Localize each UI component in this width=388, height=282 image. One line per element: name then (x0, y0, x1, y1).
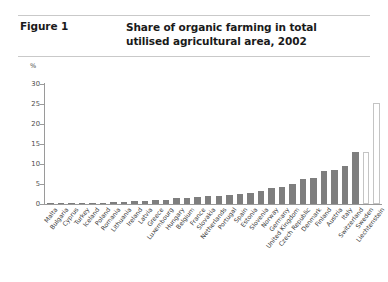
bar (279, 187, 286, 204)
bar (331, 170, 338, 204)
bar (300, 179, 307, 204)
bar (173, 198, 180, 204)
bar-cell (56, 84, 67, 204)
y-axis-tick (40, 144, 45, 145)
bar-cell (98, 84, 109, 204)
bar (47, 203, 54, 204)
bar (310, 178, 317, 204)
y-axis-tick-label: 10 (10, 161, 40, 168)
figure-title-line-2: utilised agricultural area, 2002 (126, 34, 370, 48)
bar-cell (87, 84, 98, 204)
y-axis-tick-labels: 051015202530 (6, 0, 40, 282)
bar-cell (45, 84, 56, 204)
x-axis-tick-labels: MaltaBulgariaCyprusTurkeyIcelandPolandRo… (45, 206, 382, 282)
figure-panel: Figure 1 Share of organic farming in tot… (0, 0, 388, 282)
y-axis-tick-label: 25 (10, 101, 40, 108)
bar (110, 202, 117, 204)
bar (352, 152, 359, 204)
bar (152, 200, 159, 204)
bar-cell (192, 84, 203, 204)
bar-cell (171, 84, 182, 204)
bar-cell (140, 84, 151, 204)
bar-cell (150, 84, 161, 204)
bar-cell (77, 84, 88, 204)
bar (58, 203, 65, 204)
bar (163, 200, 170, 204)
bar (142, 201, 149, 204)
bar-cell (361, 84, 372, 204)
y-axis-tick (40, 204, 45, 205)
bar-cell (224, 84, 235, 204)
bar (342, 166, 349, 204)
y-axis-tick-label: 20 (10, 121, 40, 128)
bar (131, 201, 138, 204)
bar (194, 197, 201, 204)
bar-cell (245, 84, 256, 204)
bar (68, 203, 75, 204)
bar-cell (319, 84, 330, 204)
bar (237, 194, 244, 204)
y-axis-tick (40, 124, 45, 125)
bar-cell (266, 84, 277, 204)
y-axis-tick-label: 5 (10, 181, 40, 188)
bar-cell (66, 84, 77, 204)
bar (258, 191, 265, 204)
bar-cell (235, 84, 246, 204)
bar (289, 184, 296, 204)
bar (79, 203, 86, 204)
y-axis-tick (40, 104, 45, 105)
bar-cell (350, 84, 361, 204)
bar (89, 203, 96, 204)
bar-cell (340, 84, 351, 204)
bar (247, 193, 254, 204)
bar (121, 202, 128, 204)
bar (205, 196, 212, 204)
bar-cell (298, 84, 309, 204)
bar (268, 188, 275, 204)
y-axis-tick-label: 30 (10, 81, 40, 88)
bar-cell (119, 84, 130, 204)
bar-cell (182, 84, 193, 204)
bar-cell (329, 84, 340, 204)
figure-title: Share of organic farming in total utilis… (126, 20, 370, 48)
bar (100, 203, 107, 204)
bar-cell (161, 84, 172, 204)
bar-cell (214, 84, 225, 204)
bar-cell (108, 84, 119, 204)
bar (363, 152, 370, 204)
bar-series (45, 84, 382, 204)
header-divider-top (18, 15, 370, 16)
bar (216, 196, 223, 204)
bar-cell (371, 84, 382, 204)
bar-cell (287, 84, 298, 204)
figure-title-line-1: Share of organic farming in total (126, 20, 370, 34)
y-axis-tick-label: 15 (10, 141, 40, 148)
bar (373, 103, 380, 204)
bar (184, 198, 191, 204)
bar (226, 195, 233, 204)
bar-cell (256, 84, 267, 204)
bar-cell (308, 84, 319, 204)
y-axis-tick-label: 0 (10, 201, 40, 208)
bar (321, 171, 328, 204)
bar-cell (129, 84, 140, 204)
y-axis-tick (40, 164, 45, 165)
header-divider-bottom (18, 56, 370, 57)
y-axis-tick (40, 84, 45, 85)
y-axis-tick (40, 184, 45, 185)
bar-cell (203, 84, 214, 204)
bar-cell (277, 84, 288, 204)
